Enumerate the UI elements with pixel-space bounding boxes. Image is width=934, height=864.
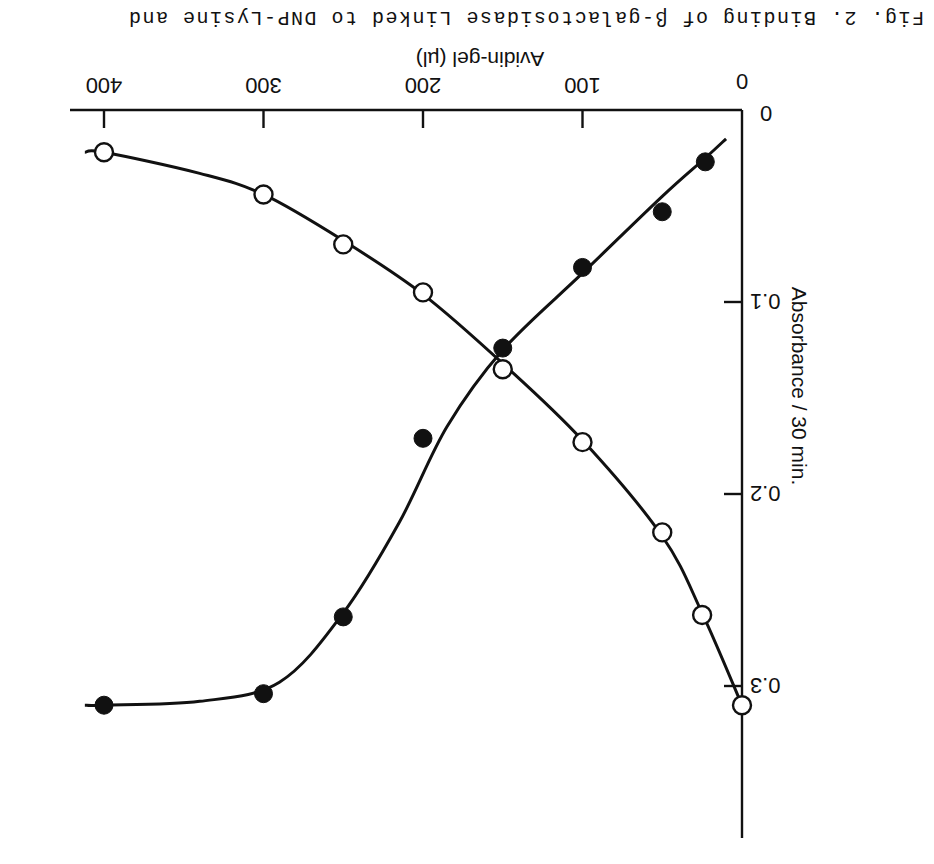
fit-curves	[85, 139, 742, 706]
filled-circle-point	[653, 203, 671, 221]
y-tick-label: 0	[760, 101, 772, 126]
axes	[70, 110, 742, 838]
open-circle-point	[255, 185, 273, 203]
figure-plot: Fig. 2. Binding of β-galactosidase Linke…	[0, 0, 934, 864]
filled-circle-point	[696, 153, 714, 171]
x-tick-label: 300	[245, 73, 282, 98]
x-tick-label: 400	[86, 73, 123, 98]
filled-circle-point	[255, 685, 273, 703]
x-tick-label: 100	[564, 73, 601, 98]
filled-series-curve	[85, 139, 726, 706]
filled-circle-point	[334, 608, 352, 626]
data-points	[95, 143, 751, 714]
x-tick-label: 200	[405, 73, 442, 98]
open-circle-point	[693, 606, 711, 624]
y-tick-label: 0.2	[750, 481, 781, 506]
filled-circle-point	[494, 339, 512, 357]
axis-ticks: 010020030040000.10.20.3	[86, 69, 781, 698]
filled-circle-point	[95, 696, 113, 714]
x-tick-label: 0	[736, 69, 748, 94]
filled-circle-point	[414, 429, 432, 447]
figure-caption: Fig. 2. Binding of β-galactosidase Linke…	[127, 6, 924, 29]
y-tick-label: 0.3	[750, 673, 781, 698]
x-axis-title: Avidin-gel (µl)	[416, 48, 544, 71]
y-tick-label: 0.1	[750, 289, 781, 314]
open-circle-point	[334, 235, 352, 253]
y-axis-title: Absorbance / 30 min.	[788, 287, 811, 485]
open-circle-point	[653, 523, 671, 541]
open-circle-point	[574, 433, 592, 451]
open-circle-point	[414, 283, 432, 301]
open-circle-point	[95, 143, 113, 161]
open-series-curve	[85, 151, 742, 706]
open-circle-point	[494, 360, 512, 378]
filled-circle-point	[574, 258, 592, 276]
open-circle-point	[733, 696, 751, 714]
